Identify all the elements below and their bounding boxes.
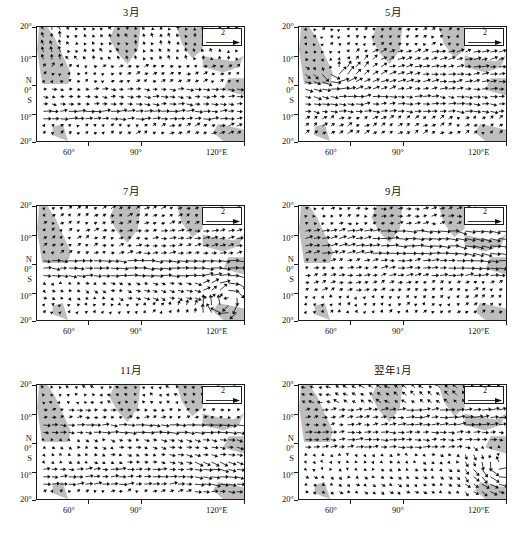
reference-vector-label: 2 (465, 386, 505, 396)
panel-title: 翌年1月 (262, 362, 524, 377)
ytick-label-20n: 20° (2, 201, 32, 210)
xtick-label-60e: 60° (63, 326, 75, 336)
ytick-label-10s: 10° (264, 113, 294, 122)
reference-vector-legend: 2 (464, 386, 504, 404)
panel-september: 9月 20° 10° N 0° S 10° 20° 60° 90° 120°E … (262, 179, 524, 358)
ytick-label-10s: 10° (2, 471, 32, 480)
reference-vector-label: 2 (465, 207, 505, 217)
ytick-label-s: S (264, 454, 294, 463)
reference-vector-legend: 2 (202, 207, 242, 225)
xtick-label-60e: 60° (325, 147, 337, 157)
ytick-label-n: N (264, 434, 294, 443)
xtick-label-90e: 90° (392, 326, 404, 336)
ytick-label-20n: 20° (2, 380, 32, 389)
reference-vector-legend: 2 (464, 28, 504, 46)
reference-vector-legend: 2 (202, 28, 242, 46)
xtick-label-90e: 90° (130, 326, 142, 336)
reference-vector-arrow (468, 397, 502, 404)
plot-frame: 2 (298, 384, 507, 500)
ytick-label-10s: 10° (264, 292, 294, 301)
ytick-label-n: N (264, 76, 294, 85)
ytick-label-s: S (264, 275, 294, 284)
reference-vector-arrow (206, 218, 240, 225)
reference-vector-arrow (206, 397, 240, 404)
ytick-label-n: N (264, 255, 294, 264)
ytick-label-10n: 10° (2, 413, 32, 422)
ytick-label-n: N (2, 76, 32, 85)
ytick-label-20s: 20° (2, 137, 32, 146)
panel-next-january: 翌年1月 20° 10° N 0° S 10° 20° 60° 90° 120°… (262, 358, 524, 537)
ytick-label-20n: 20° (264, 201, 294, 210)
ytick-label-10n: 10° (2, 55, 32, 64)
panel-title: 3月 (0, 4, 262, 19)
ytick-label-10s: 10° (2, 292, 32, 301)
xtick-label-60e: 60° (325, 326, 337, 336)
xtick-label-90e: 90° (392, 505, 404, 515)
xtick-label-90e: 90° (130, 505, 142, 515)
ytick-label-n: N (2, 255, 32, 264)
panel-march: 3月 20° 10° N 0° S 10° 20° 60° 90° 120°E … (0, 0, 262, 179)
reference-vector-arrow (206, 39, 240, 46)
ytick-label-s: S (2, 454, 32, 463)
ytick-label-20s: 20° (264, 495, 294, 504)
ytick-label-20s: 20° (264, 316, 294, 325)
figure-panel-grid: 3月 20° 10° N 0° S 10° 20° 60° 90° 120°E … (0, 0, 524, 538)
panel-title: 7月 (0, 183, 262, 198)
ytick-label-10s: 10° (264, 471, 294, 480)
plot-frame: 2 (36, 384, 245, 500)
panel-november: 11月 20° 10° N 0° S 10° 20° 60° 90° 120°E… (0, 358, 262, 537)
ytick-label-s: S (264, 96, 294, 105)
ytick-label-10n: 10° (264, 413, 294, 422)
ytick-label-n: N (2, 434, 32, 443)
ytick-label-0: 0° (264, 444, 294, 453)
panel-title: 5月 (262, 4, 524, 19)
xtick-label-120e: 120°E (206, 505, 227, 515)
ytick-label-10n: 10° (264, 234, 294, 243)
ytick-label-s: S (2, 275, 32, 284)
xtick-label-90e: 90° (130, 147, 142, 157)
xtick-label-120e: 120°E (206, 326, 227, 336)
plot-frame: 2 (298, 205, 507, 321)
xtick-label-60e: 60° (63, 505, 75, 515)
xtick-label-60e: 60° (325, 505, 337, 515)
ytick-label-0: 0° (2, 86, 32, 95)
xtick-label-120e: 120°E (206, 147, 227, 157)
ytick-label-0: 0° (264, 86, 294, 95)
ytick-label-10n: 10° (2, 234, 32, 243)
panel-title: 11月 (0, 362, 262, 377)
reference-vector-label: 2 (203, 207, 243, 217)
reference-vector-legend: 2 (202, 386, 242, 404)
ytick-label-0: 0° (2, 444, 32, 453)
ytick-label-20s: 20° (264, 137, 294, 146)
reference-vector-arrow (468, 39, 502, 46)
ytick-label-20s: 20° (2, 316, 32, 325)
reference-vector-legend: 2 (464, 207, 504, 225)
xtick-label-120e: 120°E (468, 147, 489, 157)
reference-vector-label: 2 (203, 28, 243, 38)
reference-vector-label: 2 (465, 28, 505, 38)
xtick-label-120e: 120°E (468, 326, 489, 336)
panel-july: 7月 20° 10° N 0° S 10° 20° 60° 90° 120°E … (0, 179, 262, 358)
reference-vector-label: 2 (203, 386, 243, 396)
panel-may: 5月 20° 10° N 0° S 10° 20° 60° 90° 120°E … (262, 0, 524, 179)
reference-vector-arrow (468, 218, 502, 225)
plot-frame: 2 (36, 26, 245, 142)
ytick-label-s: S (2, 96, 32, 105)
ytick-label-20n: 20° (264, 380, 294, 389)
ytick-label-0: 0° (264, 265, 294, 274)
panel-title: 9月 (262, 183, 524, 198)
ytick-label-10n: 10° (264, 55, 294, 64)
ytick-label-20n: 20° (2, 22, 32, 31)
plot-frame: 2 (298, 26, 507, 142)
ytick-label-20s: 20° (2, 495, 32, 504)
ytick-label-0: 0° (2, 265, 32, 274)
ytick-label-10s: 10° (2, 113, 32, 122)
ytick-label-20n: 20° (264, 22, 294, 31)
plot-frame: 2 (36, 205, 245, 321)
xtick-label-120e: 120°E (468, 505, 489, 515)
xtick-label-90e: 90° (392, 147, 404, 157)
xtick-label-60e: 60° (63, 147, 75, 157)
